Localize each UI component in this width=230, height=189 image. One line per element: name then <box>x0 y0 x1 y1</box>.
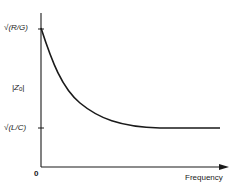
y-axis-label-main: |Z <box>12 83 19 92</box>
impedance-frequency-diagram: √(R/G) |Z0| √(L/C) 0 Frequency <box>0 0 230 189</box>
x-axis-arrow-icon <box>219 164 229 170</box>
y-axis-label-close: | <box>22 83 24 92</box>
x-axis-label: Frequency <box>185 174 223 182</box>
impedance-curve <box>41 28 220 128</box>
tick-label-sqrt-l-over-c: √(L/C) <box>4 124 26 132</box>
y-axis-label: |Z0| <box>12 84 24 92</box>
tick-label-sqrt-r-over-g: √(R/G) <box>4 24 28 32</box>
plot-area <box>0 0 230 189</box>
origin-label: 0 <box>34 170 38 178</box>
